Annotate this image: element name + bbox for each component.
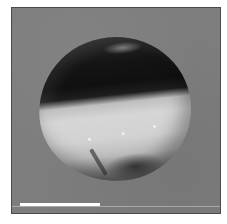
- egg-surface-highlight: [102, 40, 143, 56]
- scale-baseline: [12, 206, 221, 207]
- egg-speck: [88, 138, 91, 141]
- micrograph-frame: [11, 7, 221, 214]
- scale-bar: [20, 203, 100, 206]
- egg-speck: [153, 125, 156, 128]
- egg-speck: [121, 132, 124, 135]
